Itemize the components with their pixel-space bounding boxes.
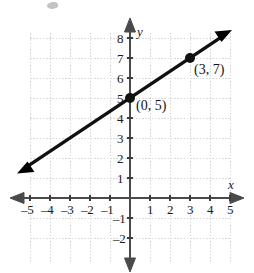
y-tick-label-5: 5 <box>117 92 124 105</box>
y-tick-label-4: 4 <box>117 112 124 125</box>
y-tick-label-7: 7 <box>117 52 124 65</box>
graph-canvas <box>0 0 254 273</box>
x-tick-label-neg2: –2 <box>81 203 93 216</box>
x-axis-label: x <box>228 178 234 191</box>
x-tick-label-neg5: –5 <box>21 203 33 216</box>
y-tick-label-6: 6 <box>117 72 124 85</box>
point-label-3-7: (3, 7) <box>194 63 224 77</box>
coordinate-plane-figure: x y –5 –4 –3 –2 –1 1 2 3 4 5 8 7 6 5 4 3… <box>0 0 254 273</box>
plotted-line <box>17 30 232 173</box>
y-axis-label: y <box>137 25 143 38</box>
point-label-0-5: (0, 5) <box>136 99 166 113</box>
x-tick-label-1: 1 <box>147 203 154 216</box>
x-tick-label-4: 4 <box>207 203 214 216</box>
y-tick-label-neg1: –1 <box>113 212 125 225</box>
y-axis-arrow-down <box>125 258 136 272</box>
axes <box>10 18 244 272</box>
y-tick-label-1: 1 <box>117 172 124 185</box>
x-tick-label-neg1: –1 <box>101 203 113 216</box>
y-tick-label-2: 2 <box>117 152 124 165</box>
x-tick-label-neg4: –4 <box>41 203 53 216</box>
y-tick-label-3: 3 <box>117 132 124 145</box>
point-0-5 <box>125 93 135 103</box>
x-tick-label-5: 5 <box>227 203 234 216</box>
y-tick-label-neg2: –2 <box>113 232 125 245</box>
y-tick-label-8: 8 <box>117 32 124 45</box>
x-tick-label-3: 3 <box>187 203 194 216</box>
x-tick-label-2: 2 <box>167 203 174 216</box>
y-axis-arrow-up <box>125 18 136 32</box>
x-tick-label-neg3: –3 <box>61 203 73 216</box>
